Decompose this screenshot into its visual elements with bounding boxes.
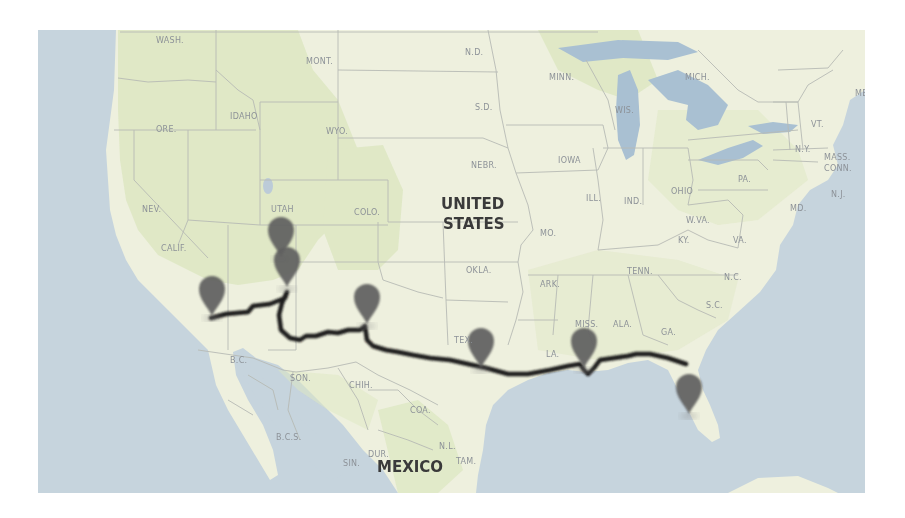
label-ind: IND. <box>624 197 642 206</box>
map-view[interactable]: Los Angeles areaSouthern UtahNorthern Ar… <box>38 30 865 493</box>
label-me: ME <box>855 89 865 98</box>
label-mich: MICH. <box>685 73 710 82</box>
label-ga: GA. <box>661 328 676 337</box>
label-ohio: OHIO <box>671 187 693 196</box>
label-nebr: NEBR. <box>471 161 497 170</box>
label-calif: CALIF. <box>161 244 187 253</box>
label-bcs: B.C.S. <box>276 433 302 442</box>
label-okla: OKLA. <box>466 266 492 275</box>
label-mont: MONT. <box>306 57 333 66</box>
label-nc: N.C. <box>724 273 742 282</box>
label-sd: S.D. <box>475 103 493 112</box>
label-mass: MASS. <box>824 153 851 162</box>
label-wis: WIS. <box>615 106 634 115</box>
label-ky: KY. <box>678 236 690 245</box>
label-coa: COA. <box>410 406 431 415</box>
label-sc: S.C. <box>706 301 723 310</box>
label-tex: TEX. <box>453 336 473 345</box>
label-chih: CHIH. <box>349 381 373 390</box>
label-iowa: IOWA <box>558 156 581 165</box>
label-wash: WASH. <box>156 36 184 45</box>
label-pa: PA. <box>738 175 751 184</box>
label-bc: B.C. <box>230 356 247 365</box>
label-mexico: MEXICO <box>377 458 443 476</box>
label-va: VA. <box>733 236 747 245</box>
label-idaho: IDAHO <box>230 112 258 121</box>
label-nl: N.L. <box>439 442 456 451</box>
label-vt: VT. <box>811 120 824 129</box>
label-united-states-line1: UNITED <box>441 195 504 213</box>
label-nev: NEV. <box>142 205 161 214</box>
label-tam: TAM. <box>455 457 476 466</box>
label-tenn: TENN. <box>626 267 653 276</box>
label-minn: MINN. <box>549 73 574 82</box>
label-united-states-line2: STATES <box>443 215 505 233</box>
label-wyo: WYO. <box>326 127 348 136</box>
cuba-landmass <box>728 476 838 493</box>
label-nd: N.D. <box>465 48 483 57</box>
label-conn: CONN. <box>824 164 852 173</box>
label-son: SON. <box>290 374 311 383</box>
label-utah: UTAH <box>271 205 294 214</box>
label-ark: ARK. <box>540 280 560 289</box>
label-ill: ILL. <box>586 194 601 203</box>
label-wva: W.VA. <box>686 216 710 225</box>
label-mo: MO. <box>540 229 556 238</box>
label-sin: SIN. <box>343 459 360 468</box>
map-canvas[interactable]: Los Angeles areaSouthern UtahNorthern Ar… <box>38 30 865 493</box>
label-colo: COLO. <box>354 208 380 217</box>
label-ore: ORE. <box>156 125 177 134</box>
label-la: LA. <box>546 350 559 359</box>
label-nj: N.J. <box>831 190 846 199</box>
label-miss: MISS. <box>575 320 598 329</box>
label-md: MD. <box>790 204 807 213</box>
label-ny: N.Y. <box>795 145 811 154</box>
label-ala: ALA. <box>613 320 632 329</box>
